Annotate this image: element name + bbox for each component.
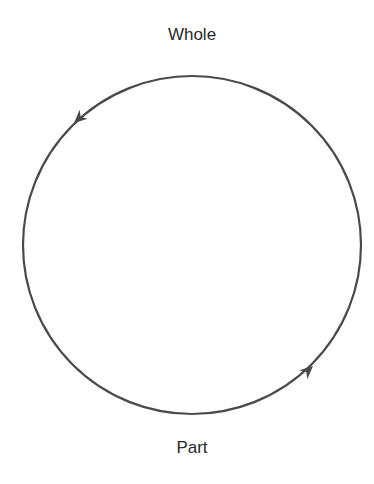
cycle-circle [23, 76, 361, 414]
arrow-head-icon-lower-right [299, 362, 317, 380]
part-label: Part [132, 438, 252, 458]
cycle-diagram [0, 0, 374, 484]
